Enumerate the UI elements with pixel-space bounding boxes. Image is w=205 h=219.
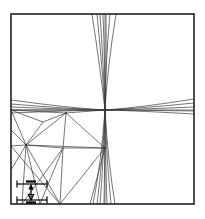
mesh-figure-svg xyxy=(0,0,205,219)
figure-root: Finite element mesh with crossing refine… xyxy=(0,0,205,219)
mesh-node xyxy=(25,144,27,146)
mesh-node xyxy=(65,112,67,114)
mesh-node xyxy=(104,147,106,149)
